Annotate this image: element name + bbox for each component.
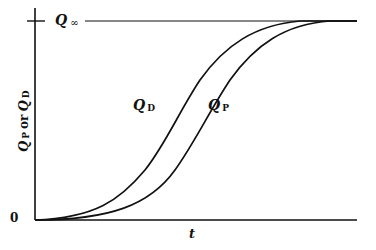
y-axis-label: QPorQD	[16, 90, 31, 152]
q-infinity-main: Q	[55, 12, 67, 28]
q-infinity-subscript: ∞	[70, 17, 78, 28]
y-label-sub1: P	[21, 132, 31, 139]
x-axis-label: t	[189, 226, 195, 241]
q-p-subscript: P	[222, 103, 229, 113]
curve-label-q-p: QP	[208, 97, 229, 113]
curve-q-d	[35, 21, 357, 220]
y-label-sub2: D	[21, 90, 31, 98]
curve-q-p	[35, 21, 357, 220]
curve-label-q-d: QD	[133, 97, 155, 113]
q-infinity-label: Q∞	[55, 12, 79, 28]
y-label-q1: Q	[16, 141, 31, 152]
q-d-subscript: D	[147, 103, 155, 113]
y-label-or: or	[17, 115, 31, 129]
chart-canvas	[0, 0, 376, 250]
y-label-q2: Q	[16, 100, 31, 111]
y-origin-label: 0	[10, 211, 18, 225]
q-d-main: Q	[133, 97, 145, 113]
q-p-main: Q	[208, 97, 220, 113]
